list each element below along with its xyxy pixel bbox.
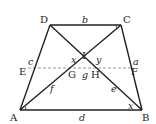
label-g: G bbox=[68, 69, 76, 80]
label-d: D bbox=[40, 14, 48, 25]
label-segment-g: g bbox=[82, 69, 88, 80]
label-a: A bbox=[9, 112, 18, 123]
label-segment-a: a bbox=[133, 56, 139, 67]
label-c: C bbox=[123, 14, 131, 25]
label-h: H bbox=[91, 69, 100, 80]
label-angle-x-g: x bbox=[71, 54, 77, 65]
label-e: E bbox=[19, 66, 26, 77]
label-angle-y-h: y bbox=[95, 54, 102, 65]
trapezoid-diagram: D C I E F G H A B b d c a g f e x y x bbox=[0, 0, 156, 124]
label-segment-c: c bbox=[28, 56, 34, 67]
label-segment-f: f bbox=[49, 83, 55, 94]
label-b: B bbox=[142, 112, 149, 123]
label-segment-b: b bbox=[82, 14, 88, 25]
label-angle-x-b: x bbox=[128, 100, 134, 111]
label-segment-e: e bbox=[111, 83, 117, 94]
label-segment-d: d bbox=[79, 112, 85, 123]
label-f: F bbox=[131, 66, 138, 77]
label-i: I bbox=[82, 50, 86, 61]
